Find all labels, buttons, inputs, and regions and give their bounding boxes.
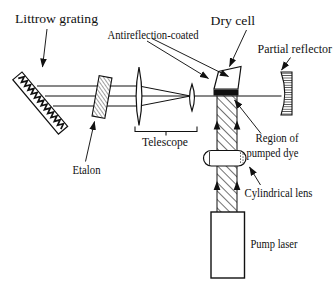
label-pump-laser: Pump laser (251, 237, 298, 251)
dye-laser-schematic: Littrow grating Antireflection-coated Dr… (0, 0, 335, 290)
etalon-pointer-arrow-icon (86, 122, 95, 162)
pointer-arrows (43, 29, 291, 185)
dry-cell-pointer-arrow-icon (230, 30, 247, 67)
label-etalon: Etalon (73, 163, 101, 177)
etalon (92, 76, 112, 119)
telescope-eyepiece-lens (190, 84, 195, 111)
cylindrical-lens-pointer-arrow-icon (250, 167, 261, 185)
label-littrow-grating: Littrow grating (15, 12, 98, 26)
mirror-body (281, 72, 292, 115)
label-cylindrical-lens: Cylindrical lens (245, 186, 313, 200)
label-region-of-pumped-dye-line2: pumped dye (247, 146, 299, 160)
label-antireflection-coated: Antireflection-coated (108, 28, 199, 42)
littrow-grating-pointer-arrow-icon (43, 29, 48, 67)
beam-converging-top (139, 86, 191, 96)
label-partial-reflector: Partial reflector (258, 42, 333, 56)
label-telescope: Telescope (142, 135, 188, 149)
pumped-dye-region (214, 90, 239, 96)
diagram-canvas: Littrow grating Antireflection-coated Dr… (0, 0, 335, 290)
label-dry-cell: Dry cell (211, 14, 256, 28)
antireflection-pointer-arrow-icon (147, 41, 209, 79)
partial-reflector-pointer-arrow-icon (282, 58, 291, 71)
partial-reflector (281, 72, 292, 115)
pump-laser-box (211, 212, 245, 278)
etalon-body (92, 76, 112, 119)
telescope-objective-lens (136, 67, 142, 126)
littrow-grating (13, 72, 68, 134)
beam-converging-bottom (139, 96, 191, 106)
dry-cell-body (214, 67, 241, 90)
antireflection-pointer-arrow-icon (152, 39, 229, 77)
label-region-of-pumped-dye-line1: Region of (256, 131, 299, 145)
beam-rays (37, 86, 282, 106)
pump-beam-upper-fill (217, 96, 237, 151)
cylindrical-lens (204, 151, 247, 167)
